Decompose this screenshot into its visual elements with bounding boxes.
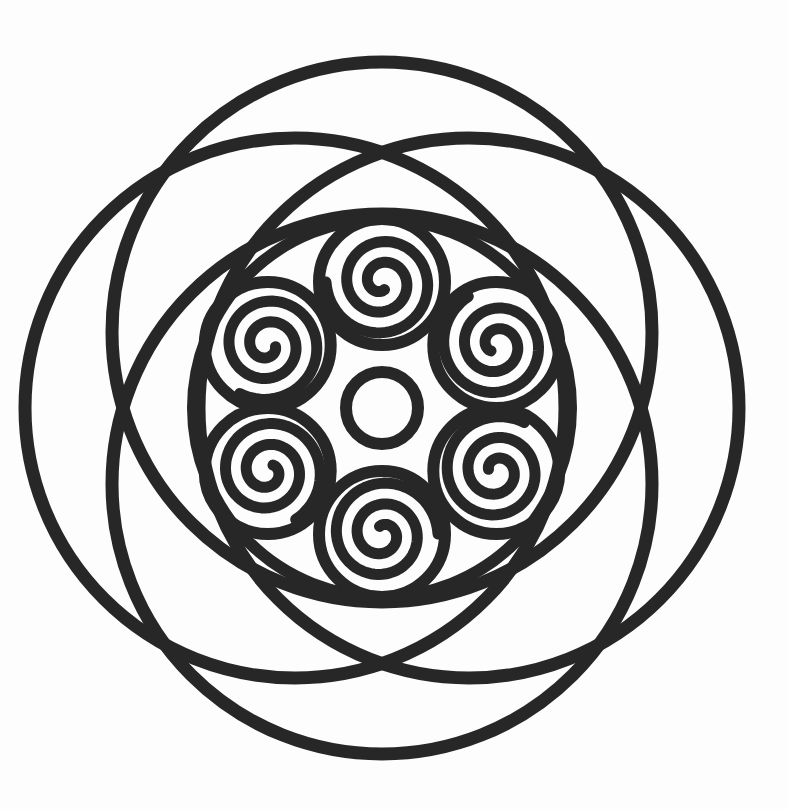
- spiral-medallions: [205, 219, 560, 597]
- spiral-upper-left: [229, 301, 317, 399]
- spiral-bottom: [336, 483, 438, 574]
- mandala-artwork: [0, 0, 788, 809]
- spiral-medallion-top: [319, 219, 445, 345]
- spiral-upper-right: [444, 297, 539, 393]
- spiral-lower-right: [447, 417, 535, 515]
- spiral-medallion-lower-left: [205, 408, 331, 534]
- spiral-top: [326, 242, 428, 333]
- spiral-lower-left: [226, 424, 321, 520]
- spiral-medallion-upper-right: [433, 282, 559, 408]
- spiral-medallion-lower-right: [433, 408, 559, 534]
- outer-petal-circles: [25, 62, 739, 754]
- center-circle: [346, 372, 418, 444]
- spiral-medallion-bottom: [319, 471, 445, 597]
- spiral-medallion-upper-left: [205, 282, 331, 408]
- coloring-page: [0, 0, 788, 809]
- central-small-circle: [346, 372, 418, 444]
